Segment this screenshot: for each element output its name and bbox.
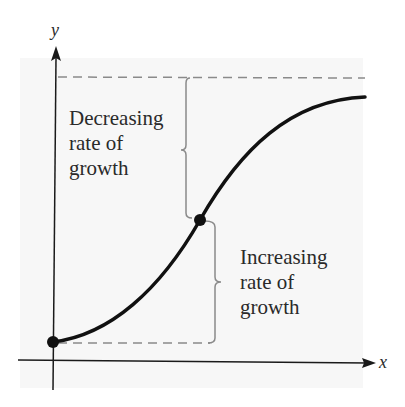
- upper-asymptote-dashed-line: [58, 77, 365, 78]
- y-axis-label: y: [51, 20, 59, 41]
- growth-diagram: [0, 0, 405, 407]
- lower-annotation: Increasing rate of growth: [240, 245, 327, 320]
- x-axis-arrow-icon: [362, 358, 376, 368]
- inflection-point: [194, 214, 206, 226]
- start-point: [47, 336, 59, 348]
- x-axis-label: x: [379, 352, 387, 373]
- upper-annotation: Decreasing rate of growth: [69, 106, 163, 181]
